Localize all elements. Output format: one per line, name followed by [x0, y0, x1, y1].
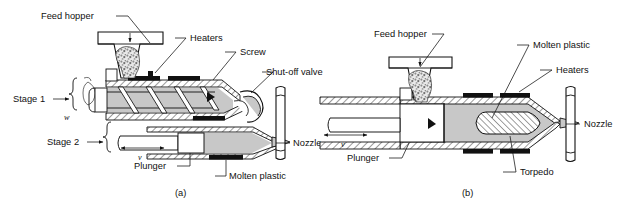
label-stage-1: Stage 1	[13, 94, 45, 104]
torpedo-b	[476, 112, 540, 134]
figure-canvas: Stage 1 w Stage 2	[0, 0, 637, 209]
label-heaters-b: Heaters	[556, 65, 589, 75]
plunger-chamber-b	[400, 104, 444, 142]
plunger-head-a	[178, 133, 204, 153]
hopper-throat-b	[400, 88, 412, 100]
label-heaters-a: Heaters	[190, 33, 223, 43]
heater-band-b4	[500, 149, 530, 154]
label-molten-plastic-a: Molten plastic	[229, 171, 286, 181]
barrel-stub-top-b	[320, 97, 400, 104]
label-plunger-a: Plunger	[134, 161, 166, 171]
label-nozzle-b: Nozzle	[584, 119, 612, 129]
label-feed-hopper-a: Feed hopper	[41, 11, 94, 21]
caption-b: (b)	[462, 188, 473, 198]
label-molten-plastic-b: Molten plastic	[533, 40, 590, 50]
label-plunger-b: Plunger	[347, 153, 379, 163]
screw-drive-end	[95, 88, 107, 112]
heater-band-a3	[209, 155, 243, 160]
label-screw-a: Screw	[240, 47, 266, 57]
label-shut-off-valve-a: Shut-off valve	[266, 67, 323, 77]
label-feed-hopper-b: Feed hopper	[374, 29, 427, 39]
heater-band-b3	[463, 149, 493, 154]
heater-band-b1	[463, 93, 493, 98]
label-stage-2: Stage 2	[47, 137, 79, 147]
caption-a: (a)	[175, 188, 186, 198]
annotation-velocity-b: v	[341, 140, 345, 149]
heater-band-a2	[168, 76, 200, 81]
mold-plate-a	[276, 87, 285, 160]
hopper-throat-block	[106, 69, 117, 81]
plunger-rod-b	[328, 118, 400, 132]
barrel-stub-bottom-b	[320, 142, 400, 149]
label-torpedo-b: Torpedo	[520, 167, 554, 177]
heater-band-a4	[193, 116, 225, 120]
injection-molding-figure: Stage 1 w Stage 2	[0, 0, 637, 209]
heater-lead-a	[148, 71, 153, 77]
annotation-rotation-w: w	[64, 113, 70, 122]
label-nozzle-a: Nozzle	[293, 138, 321, 148]
